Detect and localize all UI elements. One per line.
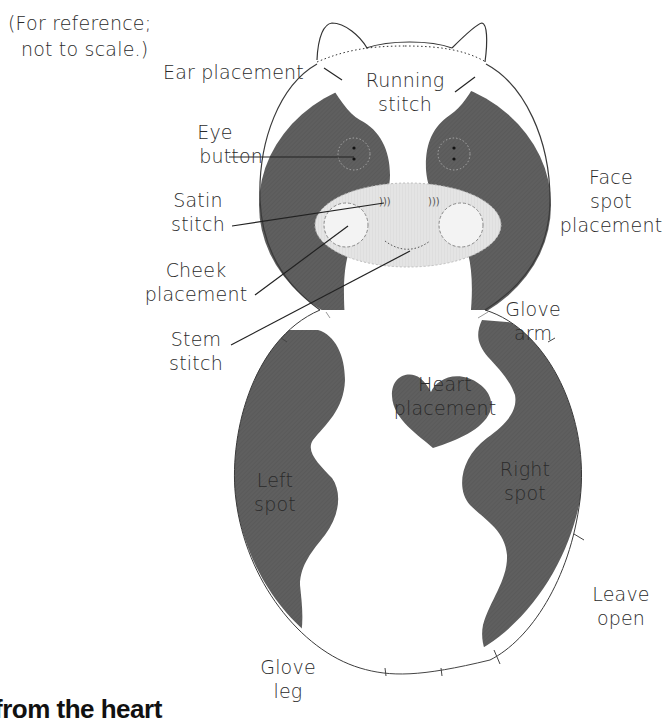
label-face-spot-line1: Face <box>556 165 666 189</box>
label-leave-open-line2: open <box>586 606 656 630</box>
label-leave-open: Leave open <box>586 582 656 630</box>
label-eye-button-line1: Eye <box>165 120 265 144</box>
label-satin-stitch-line1: Satin <box>158 188 238 212</box>
label-heart-line1: Heart <box>385 372 505 396</box>
label-left-spot-line2: spot <box>245 492 305 516</box>
label-cheek-placement-line2: placement <box>136 282 256 306</box>
label-running-stitch: Running stitch <box>355 68 455 116</box>
reference-note-line2: not to scale.) <box>8 36 151 62</box>
label-satin-stitch-line2: stitch <box>158 212 238 236</box>
svg-text:))): ))) <box>428 196 440 207</box>
label-heart-placement: Heart placement <box>385 372 505 420</box>
label-glove-arm: Glove arm <box>498 297 568 345</box>
label-ear-placement: Ear placement <box>163 60 304 84</box>
label-leave-open-line1: Leave <box>586 582 656 606</box>
label-left-spot-line1: Left <box>245 468 305 492</box>
label-stem-stitch-line1: Stem <box>156 327 236 351</box>
label-right-spot-line2: spot <box>490 481 560 505</box>
label-stem-stitch-line2: stitch <box>156 351 236 375</box>
label-cheek-placement: Cheek placement <box>136 258 256 306</box>
label-right-spot-line1: Right <box>490 457 560 481</box>
label-eye-button: Eye button <box>165 120 265 168</box>
label-satin-stitch: Satin stitch <box>158 188 238 236</box>
label-eye-button-line2: button <box>165 144 265 168</box>
label-stem-stitch: Stem stitch <box>156 327 236 375</box>
label-glove-leg-line2: leg <box>258 679 318 703</box>
label-left-spot: Left spot <box>245 468 305 516</box>
muzzle: ))) ))) <box>315 183 501 267</box>
reference-note-line1: (For reference; <box>8 10 151 36</box>
label-running-stitch-line1: Running <box>355 68 455 92</box>
section-heading-partial: from the heart <box>0 694 162 722</box>
label-running-stitch-line2: stitch <box>355 92 455 116</box>
label-glove-leg: Glove leg <box>258 655 318 703</box>
label-face-spot-placement: Face spot placement <box>556 165 666 237</box>
label-glove-leg-line1: Glove <box>258 655 318 679</box>
label-heart-line2: placement <box>385 396 505 420</box>
label-right-spot: Right spot <box>490 457 560 505</box>
reference-note: (For reference; not to scale.) <box>8 10 151 62</box>
label-cheek-placement-line1: Cheek <box>136 258 256 282</box>
label-glove-arm-line2: arm <box>498 321 568 345</box>
label-glove-arm-line1: Glove <box>498 297 568 321</box>
label-face-spot-line3: placement <box>556 213 666 237</box>
label-face-spot-line2: spot <box>556 189 666 213</box>
svg-text:))): ))) <box>379 196 391 207</box>
